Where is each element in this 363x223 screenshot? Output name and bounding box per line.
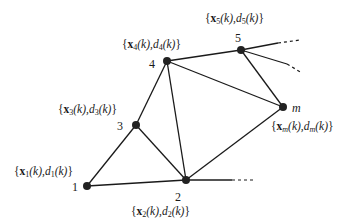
node-m: [279, 103, 287, 111]
set-label-2: {x2(k),d2(k)}: [131, 205, 190, 219]
open-edge-5b-solid: [241, 50, 287, 64]
edges: [87, 50, 283, 186]
node-2: [182, 176, 190, 184]
node-label-2: 2: [175, 190, 181, 204]
node-5: [237, 46, 245, 54]
edge-1-2: [87, 180, 186, 186]
node-1: [83, 182, 91, 190]
set-label-m: {xm(k),dm(k)}: [271, 120, 334, 134]
set-labels: {x1(k),d1(k)} {x2(k),d2(k)} {x3(k),d3(k)…: [14, 12, 334, 219]
node-label-4: 4: [149, 57, 155, 71]
node-label-3: 3: [117, 119, 123, 133]
set-label-3: {x3(k),d3(k)}: [58, 103, 117, 117]
node-label-1: 1: [72, 180, 78, 194]
edge-4-5: [167, 50, 241, 61]
node-3: [132, 121, 140, 129]
edge-1-3: [87, 125, 136, 186]
set-label-4: {x4(k),d4(k)}: [122, 38, 181, 52]
set-label-5: {x5(k),d5(k)}: [205, 12, 264, 26]
open-edge-5a-solid: [241, 43, 278, 50]
open-edge-5a-dashed: [278, 40, 300, 43]
node-label-m: m: [292, 101, 301, 115]
open-edge-5b-dashed: [287, 64, 302, 73]
node-label-5: 5: [235, 31, 241, 45]
network-diagram: 1 2 3 4 5 m {x1(k),d1(k)} {x2(k),d2(k)} …: [0, 0, 363, 223]
edge-2-m: [186, 107, 283, 180]
set-label-1: {x1(k),d1(k)}: [14, 165, 73, 179]
node-4: [163, 57, 171, 65]
